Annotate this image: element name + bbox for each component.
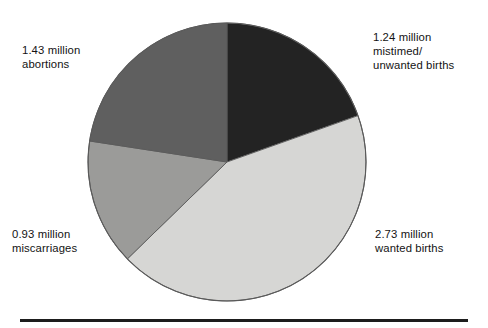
pie-slice-group [88,23,366,301]
pie-chart-area [87,22,367,302]
pie-chart-figure: 1.24 million mistimed/ unwanted births 2… [0,0,488,328]
pie-chart-svg [87,22,367,302]
slice-label-miscarriages: 0.93 million miscarriages [12,227,116,255]
slice-label-abortions: 1.43 million abortions [22,43,126,71]
slice-label-wanted-births: 2.73 million wanted births [375,227,485,255]
bottom-divider-rule [20,319,468,322]
slice-label-mistimed-unwanted-births: 1.24 million mistimed/ unwanted births [373,30,485,73]
